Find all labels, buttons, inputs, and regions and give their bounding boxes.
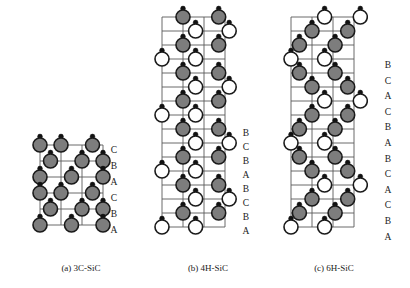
silicon-atom xyxy=(54,134,68,152)
carbon-atom xyxy=(155,216,169,234)
carbon-atom xyxy=(318,6,332,24)
carbon-atom xyxy=(155,48,169,66)
silicon-atom xyxy=(292,118,306,136)
silicon-atom xyxy=(328,202,342,220)
atom-sphere xyxy=(176,94,190,108)
atom-sphere xyxy=(176,178,190,192)
atom-sphere xyxy=(189,136,203,150)
atom-sphere xyxy=(75,154,89,168)
silicon-atom xyxy=(341,20,355,38)
atom-layer xyxy=(33,134,110,232)
stacking-label: B xyxy=(382,61,394,77)
silicon-atom xyxy=(86,134,100,152)
atom-sphere xyxy=(176,122,190,136)
silicon-atom xyxy=(33,166,47,184)
atom-sphere xyxy=(189,220,203,234)
silicon-atom xyxy=(328,118,342,136)
silicon-atom xyxy=(176,62,190,80)
atom-sphere xyxy=(284,220,298,234)
atom-layer xyxy=(155,6,236,234)
atom-sphere xyxy=(328,122,342,136)
silicon-atom xyxy=(341,188,355,206)
atom-sphere xyxy=(353,178,367,192)
atom-sphere xyxy=(292,38,306,52)
atom-sphere xyxy=(65,218,79,232)
silicon-atom xyxy=(176,34,190,52)
panel-caption-3c-sic: (a) 3C-SiC xyxy=(33,263,129,273)
carbon-atom xyxy=(222,132,236,150)
atom-sphere xyxy=(341,108,355,122)
stacking-sequence-3c-sic: CBACBA xyxy=(108,146,120,242)
atom-sphere xyxy=(212,122,226,136)
stacking-label: C xyxy=(382,170,394,186)
silicon-atom xyxy=(176,174,190,192)
atom-sphere xyxy=(86,138,100,152)
carbon-atom xyxy=(189,76,203,94)
silicon-atom xyxy=(176,202,190,220)
atom-sphere xyxy=(176,38,190,52)
carbon-atom xyxy=(318,174,332,192)
atom-sphere xyxy=(305,24,319,38)
silicon-atom xyxy=(33,182,47,200)
panel-caption-4h-sic: (b) 4H-SiC xyxy=(160,263,256,273)
silicon-atom xyxy=(305,188,319,206)
atom-sphere xyxy=(212,10,226,24)
carbon-atom xyxy=(353,6,367,24)
silicon-atom xyxy=(305,160,319,178)
panel-3c-sic xyxy=(28,131,117,237)
silicon-atom xyxy=(44,198,58,216)
atom-sphere xyxy=(341,24,355,38)
stacking-sequence-6h-sic: BCACBABCACBA xyxy=(382,61,394,248)
atom-sphere xyxy=(212,150,226,164)
atom-sphere xyxy=(341,192,355,206)
atom-sphere xyxy=(284,52,298,66)
atom-sphere xyxy=(222,80,236,94)
atom-sphere xyxy=(222,192,236,206)
stacking-label: C xyxy=(108,146,120,162)
carbon-atom xyxy=(353,174,367,192)
atom-sphere xyxy=(318,178,332,192)
atom-sphere xyxy=(189,52,203,66)
stacking-label: A xyxy=(108,178,120,194)
silicon-atom xyxy=(212,6,226,24)
silicon-atom xyxy=(305,20,319,38)
atom-sphere xyxy=(305,80,319,94)
stacking-label: C xyxy=(382,77,394,93)
atom-sphere xyxy=(33,138,47,152)
stacking-label: A xyxy=(240,171,252,185)
carbon-atom xyxy=(189,48,203,66)
silicon-atom xyxy=(212,202,226,220)
lattice-3c-sic xyxy=(28,131,117,237)
atom-sphere xyxy=(328,206,342,220)
atom-sphere xyxy=(353,94,367,108)
carbon-atom xyxy=(222,188,236,206)
stacking-label: B xyxy=(382,217,394,233)
atom-sphere xyxy=(305,108,319,122)
silicon-atom xyxy=(328,34,342,52)
carbon-atom xyxy=(318,132,332,150)
silicon-atom xyxy=(212,146,226,164)
silicon-atom xyxy=(212,62,226,80)
atom-sphere xyxy=(341,164,355,178)
atom-sphere xyxy=(189,80,203,94)
atom-sphere xyxy=(189,192,203,206)
stacking-label: A xyxy=(382,139,394,155)
lattice-4h-sic xyxy=(150,3,239,239)
atom-sphere xyxy=(305,192,319,206)
atom-sphere xyxy=(305,164,319,178)
atom-sphere xyxy=(328,38,342,52)
atom-sphere xyxy=(212,178,226,192)
atom-sphere xyxy=(75,202,89,216)
silicon-atom xyxy=(341,104,355,122)
atom-sphere xyxy=(176,150,190,164)
stacking-label: B xyxy=(108,210,120,226)
silicon-atom xyxy=(212,90,226,108)
carbon-atom xyxy=(189,216,203,234)
carbon-atom xyxy=(189,188,203,206)
silicon-atom xyxy=(305,104,319,122)
atom-sphere xyxy=(176,206,190,220)
silicon-atom xyxy=(75,198,89,216)
silicon-atom xyxy=(212,34,226,52)
silicon-atom xyxy=(33,134,47,152)
atom-sphere xyxy=(284,136,298,150)
